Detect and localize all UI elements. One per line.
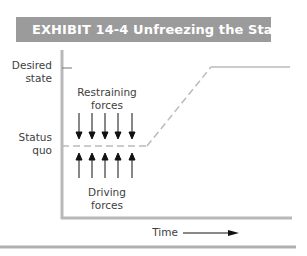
force-field-diagram: [0, 0, 307, 256]
time-label: Time: [150, 226, 180, 239]
time-arrow-head: [228, 230, 239, 236]
status-quo-label: Status quo: [4, 131, 52, 157]
driving-forces-label: Driving forces: [74, 186, 140, 212]
transition-line: [147, 67, 211, 146]
driving-force-arrows: [76, 153, 135, 178]
restraining-force-arrows: [76, 113, 135, 139]
restraining-forces-label: Restraining forces: [74, 86, 140, 112]
desired-state-label: Desired state: [4, 59, 52, 85]
